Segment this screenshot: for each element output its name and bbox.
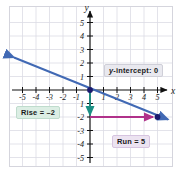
- x-tick-label: 4: [142, 93, 146, 102]
- y-tick-label: 4: [80, 32, 84, 41]
- x-tick-label: -5: [19, 93, 26, 102]
- x-tick-label: -2: [60, 93, 67, 102]
- point-origin: [87, 87, 93, 93]
- x-tick-label: -3: [46, 93, 53, 102]
- x-tick-label: -4: [33, 93, 40, 102]
- y-intercept-callout-text: -intercept: 0: [113, 66, 158, 75]
- y-tick-label: -4: [77, 140, 84, 149]
- y-tick-label: 1: [80, 100, 84, 109]
- y-tick-label: 5: [80, 19, 84, 28]
- x-tick-label: 5: [155, 93, 159, 102]
- y-tick-label: -5: [77, 154, 84, 163]
- coordinate-plane: -5 -4 -3 -2 -1 1 2 3 4 5 1 2 3 4 5 1 -2 …: [0, 0, 182, 174]
- run-callout: Run = 5: [112, 135, 150, 148]
- graph-figure: -5 -4 -3 -2 -1 1 2 3 4 5 1 2 3 4 5 1 -2 …: [0, 0, 182, 174]
- y-intercept-callout: y-intercept: 0: [104, 64, 163, 77]
- coordinate-plane-svg: -5 -4 -3 -2 -1 1 2 3 4 5 1 2 3 4 5 1 -2 …: [0, 0, 182, 174]
- y-tick-label: 1: [80, 73, 84, 82]
- y-tick-label: 3: [79, 46, 84, 55]
- rise-callout: Rise = –2: [16, 106, 60, 119]
- x-axis-label: x: [170, 86, 176, 96]
- y-tick-label: -2: [77, 113, 84, 122]
- x-tick-label: -1: [73, 93, 80, 102]
- y-tick-label: -3: [77, 127, 84, 136]
- point-second: [155, 114, 161, 120]
- y-tick-label: 2: [80, 59, 84, 68]
- y-axis-label: y: [83, 3, 89, 13]
- x-tick-label: 3: [127, 93, 132, 102]
